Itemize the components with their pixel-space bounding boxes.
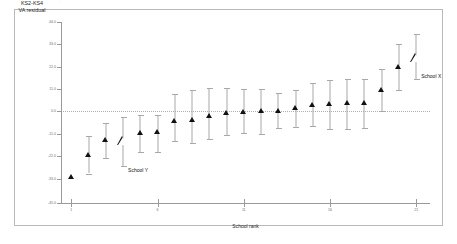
marker-triangle-filled xyxy=(258,108,264,113)
error-bar-cap-upper xyxy=(362,79,368,80)
error-bar-cap-upper xyxy=(103,123,109,124)
error-bar-cap-lower xyxy=(172,141,178,142)
marker-triangle-filled xyxy=(206,113,212,118)
error-bar-cap-lower xyxy=(138,152,144,153)
error-bar-cap-lower xyxy=(362,128,368,129)
y-tick-mark xyxy=(57,156,62,157)
error-bar-cap-lower xyxy=(396,90,402,91)
x-tick-mark xyxy=(416,199,417,207)
error-bar-cap-lower xyxy=(86,174,92,175)
y-tick-mark xyxy=(57,89,62,90)
error-bar-cap-upper xyxy=(241,89,247,90)
y-tick-label: -45.0 xyxy=(48,201,56,205)
y-tick-mark xyxy=(57,44,62,45)
x-tick-label: 16 xyxy=(320,208,340,212)
annotation-label-school-x: School X xyxy=(421,73,441,79)
y-tick-mark xyxy=(57,111,62,112)
y-tick-mark xyxy=(57,134,62,135)
error-bar-cap-lower xyxy=(224,135,230,136)
y-tick-label-wrap: 44.0 xyxy=(0,22,57,23)
marker-triangle-filled xyxy=(361,100,367,105)
marker-triangle-filled xyxy=(292,105,298,110)
x-tick-label: 6 xyxy=(148,208,168,212)
error-bar-cap-upper xyxy=(259,89,265,90)
error-bar-cap-lower xyxy=(259,134,265,135)
y-axis-line xyxy=(61,22,62,203)
error-bar-cap-upper xyxy=(86,136,92,137)
error-bar-cap-upper xyxy=(327,80,333,81)
marker-triangle-filled xyxy=(344,100,350,105)
y-tick-label: 33.0 xyxy=(49,42,56,46)
x-tick-label: 21 xyxy=(406,208,426,212)
y-tick-label-wrap: -22.0 xyxy=(0,156,57,157)
error-bar-cap-upper xyxy=(276,93,282,94)
error-bar-cap-lower xyxy=(155,152,161,153)
x-tick-label: 11 xyxy=(234,208,254,212)
error-bar-cap-upper xyxy=(293,90,299,91)
y-tick-mark xyxy=(57,22,62,23)
error-bar-cap-upper xyxy=(310,83,316,84)
marker-triangle-open-fill xyxy=(118,137,128,145)
marker-triangle-filled xyxy=(68,174,74,179)
marker-triangle-filled xyxy=(309,102,315,107)
error-bar-cap-upper xyxy=(379,69,385,70)
error-bar-cap-lower xyxy=(379,111,385,112)
y-tick-label-wrap: -45.0 xyxy=(0,203,57,204)
marker-triangle-filled xyxy=(154,129,160,134)
marker-triangle-filled xyxy=(102,137,108,142)
error-bar-cap-lower xyxy=(103,158,109,159)
y-tick-label-wrap: -33.0 xyxy=(0,179,57,180)
y-tick-label: -11.0 xyxy=(48,132,56,136)
y-tick-mark xyxy=(57,67,62,68)
error-bar-cap-upper xyxy=(396,44,402,45)
x-tick-label: 1 xyxy=(61,208,81,212)
y-tick-label-wrap: 33.0 xyxy=(0,44,57,45)
y-tick-mark xyxy=(57,179,62,180)
y-axis-title-line1: KS2-KS4 xyxy=(6,0,58,7)
y-axis-title-line2: VA residual xyxy=(6,7,58,14)
y-tick-label: 0.0 xyxy=(51,109,56,113)
y-tick-label: -33.0 xyxy=(48,177,56,181)
marker-triangle-filled xyxy=(378,87,384,92)
y-tick-label: -22.0 xyxy=(48,154,56,158)
x-tick-mark xyxy=(244,199,245,207)
error-bar-cap-lower xyxy=(207,139,213,140)
error-bar-cap-lower xyxy=(293,127,299,128)
error-bar-cap-upper xyxy=(138,115,144,116)
marker-triangle-filled xyxy=(395,64,401,69)
error-bar-cap-lower xyxy=(327,129,333,130)
y-tick-label: 22.0 xyxy=(49,65,56,69)
error-bar-cap-lower xyxy=(345,129,351,130)
x-axis-line xyxy=(61,203,430,204)
error-bar-cap-upper xyxy=(121,117,127,118)
x-tick-mark xyxy=(158,199,159,207)
marker-triangle-filled xyxy=(275,108,281,113)
marker-triangle-filled xyxy=(137,130,143,135)
marker-triangle-filled xyxy=(240,109,246,114)
error-bar-cap-lower xyxy=(241,133,247,134)
error-bar-cap-lower xyxy=(414,79,420,80)
marker-triangle-filled xyxy=(189,117,195,122)
marker-triangle-filled xyxy=(85,152,91,157)
y-tick-label-wrap: 11.0 xyxy=(0,89,57,90)
chart-screenshot: · 44.033.022.011.00.0-11.0-22.0-33.0-45.… xyxy=(0,0,457,244)
x-tick-mark xyxy=(330,199,331,207)
marker-triangle-filled xyxy=(171,118,177,123)
error-bar-cap-lower xyxy=(190,143,196,144)
y-tick-label: 11.0 xyxy=(49,87,56,91)
plot-area: 44.033.022.011.00.0-11.0-22.0-33.0-45.0 … xyxy=(0,0,457,244)
error-bar-cap-lower xyxy=(121,166,127,167)
error-bar-cap-upper xyxy=(190,90,196,91)
error-bar-cap-upper xyxy=(224,88,230,89)
annotation-label-school-y: School Y xyxy=(128,167,148,173)
error-bar-cap-upper xyxy=(172,94,178,95)
y-axis-title: KS2-KS4 VA residual xyxy=(6,0,58,14)
marker-triangle-filled xyxy=(223,110,229,115)
error-bar-cap-upper xyxy=(207,88,213,89)
error-bar-cap-upper xyxy=(345,79,351,80)
y-tick-mark xyxy=(57,203,62,204)
error-bar-cap-upper xyxy=(414,34,420,35)
y-tick-label-wrap: 0.0 xyxy=(0,111,57,112)
x-tick-mark xyxy=(71,199,72,207)
error-bar-cap-upper xyxy=(155,115,161,116)
